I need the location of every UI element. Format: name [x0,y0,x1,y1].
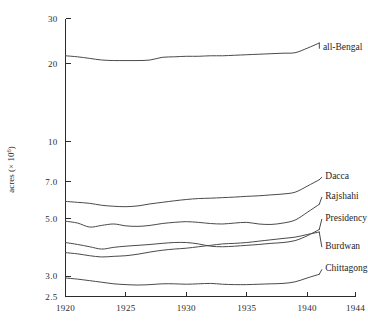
leader-line-burdwan [319,232,322,247]
x-axis-tick-labels: 192019251930193519401944 [56,303,365,313]
series-label-burdwan: Burdwan [325,241,360,251]
series-line-all-bengal [66,43,320,61]
leader-line-dacca [319,177,322,179]
leader-line-chittagong [319,270,322,275]
chart-page: 2.53.05.07.0102030 192019251930193519401… [0,0,368,324]
y-axis-label-7.0: 7.0 [45,177,57,187]
chart-series-lines [66,43,320,285]
series-line-chittagong [66,274,320,285]
series-line-rajshahi [66,204,320,227]
y-axis-label-20: 20 [48,59,58,69]
y-axis-title-text: acres (× 106) [5,146,17,192]
leader-line-rajshahi [319,197,322,204]
series-line-dacca [66,180,320,207]
x-axis-label-1930: 1930 [177,303,196,313]
series-line-presidency [66,230,320,250]
x-axis-label-1940: 1940 [298,303,317,313]
series-line-burdwan [66,232,320,257]
y-axis-label-10: 10 [48,137,58,147]
series-labels: all-BengalDaccaRajshahiPresidencyBurdwan… [323,42,368,273]
x-axis-label-1925: 1925 [116,303,135,313]
line-chart: 2.53.05.07.0102030 192019251930193519401… [0,0,368,324]
y-axis-title: acres (× 106) [5,146,17,192]
leader-line-presidency [319,219,322,229]
x-axis-label-1944: 1944 [346,303,365,313]
series-label-all-bengal: all-Bengal [323,42,363,52]
x-axis-label-1935: 1935 [237,303,256,313]
y-axis-label-5.0: 5.0 [45,214,57,224]
series-label-rajshahi: Rajshahi [325,191,359,201]
y-axis-label-3.0: 3.0 [45,271,57,281]
chart-label-leader-lines [319,43,322,274]
y-axis-label-30: 30 [48,14,58,24]
x-axis-label-1920: 1920 [56,303,75,313]
series-label-dacca: Dacca [325,171,350,181]
y-axis-tick-labels: 2.53.05.07.0102030 [45,14,57,302]
series-label-chittagong: Chittagong [325,263,367,273]
series-label-presidency: Presidency [325,213,367,223]
y-axis-label-2.5: 2.5 [45,292,57,302]
